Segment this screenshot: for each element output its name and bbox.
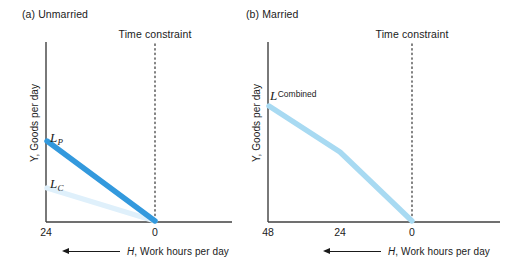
- panel-b-line-combined: [269, 106, 412, 221]
- panel-a-lp-base: L: [50, 130, 57, 145]
- panel-b-x-axis-label-group: H, Work hours per day: [323, 246, 490, 257]
- panel-a-left-arrow-icon: [62, 248, 120, 256]
- panel-unmarried: (a) Unmarried Y, Goods per day Time cons…: [0, 0, 262, 275]
- panel-a-xtick-24: 24: [40, 226, 52, 238]
- panel-b-combined-base: L: [270, 88, 277, 103]
- panel-b-curve-label-combined: LCombined: [270, 88, 316, 104]
- panel-a-lc-subscript: C: [58, 183, 64, 193]
- panel-a-lp-subscript: P: [58, 137, 64, 147]
- panel-b-left-arrow-icon: [323, 248, 381, 256]
- panel-married: (b) Married Y, Goods per day Time constr…: [228, 0, 525, 275]
- panel-b-x-rest: , Work hours per day: [395, 246, 490, 257]
- figure-container: (a) Unmarried Y, Goods per day Time cons…: [0, 0, 525, 275]
- panel-a-lc-base: L: [50, 176, 57, 191]
- panel-b-xtick-0: 0: [409, 226, 415, 238]
- panel-a-curve-label-lc: LC: [50, 176, 63, 192]
- panel-a-x-rest: , Work hours per day: [134, 246, 229, 257]
- panel-b-x-axis-label: H, Work hours per day: [388, 246, 490, 257]
- panel-a-curve-label-lp: LP: [50, 130, 63, 146]
- panel-b-combined-superscript: Combined: [278, 89, 317, 99]
- panel-a-xtick-0: 0: [152, 226, 158, 238]
- panel-b-xtick-48: 48: [262, 226, 274, 238]
- panel-a-x-axis-label: H, Work hours per day: [127, 246, 229, 257]
- panel-b-xtick-24: 24: [334, 226, 346, 238]
- panel-a-x-axis-label-group: H, Work hours per day: [62, 246, 229, 257]
